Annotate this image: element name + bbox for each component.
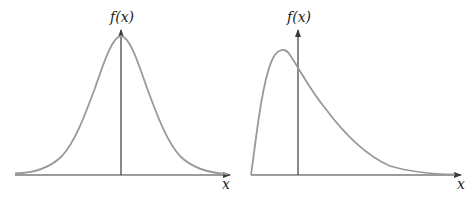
- skewed-density-panel: f(x) x: [251, 9, 465, 192]
- density-diagrams: f(x) x f(x) x: [0, 0, 476, 197]
- y-axis-label: f(x): [109, 9, 134, 25]
- skewed-curve: [251, 50, 455, 175]
- y-axis-label: f(x): [286, 9, 311, 25]
- symmetric-density-panel: f(x) x: [15, 9, 230, 192]
- x-axis-label: x: [457, 176, 465, 192]
- x-axis-label: x: [222, 176, 230, 192]
